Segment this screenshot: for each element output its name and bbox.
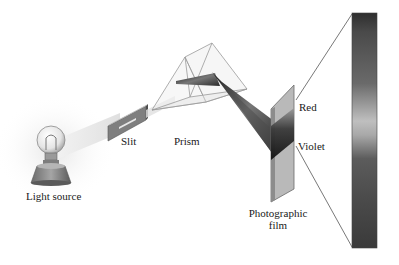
label-light-source: Light source — [26, 190, 81, 202]
label-film-line2: film — [269, 219, 287, 231]
label-red: Red — [299, 101, 317, 113]
label-prism: Prism — [174, 135, 200, 147]
spectrum-strip — [352, 13, 377, 248]
diagram-svg — [0, 0, 399, 265]
photographic-film — [271, 85, 294, 202]
zoom-line-bottom — [296, 146, 352, 247]
label-film-line1: Photographic — [249, 207, 308, 219]
label-photographic-film: Photographic film — [244, 207, 312, 231]
zoom-line-top — [296, 14, 352, 100]
label-violet: Violet — [298, 140, 325, 152]
label-slit: Slit — [121, 135, 136, 147]
diagram-canvas: Light source Slit Prism Red Violet Photo… — [0, 0, 399, 265]
